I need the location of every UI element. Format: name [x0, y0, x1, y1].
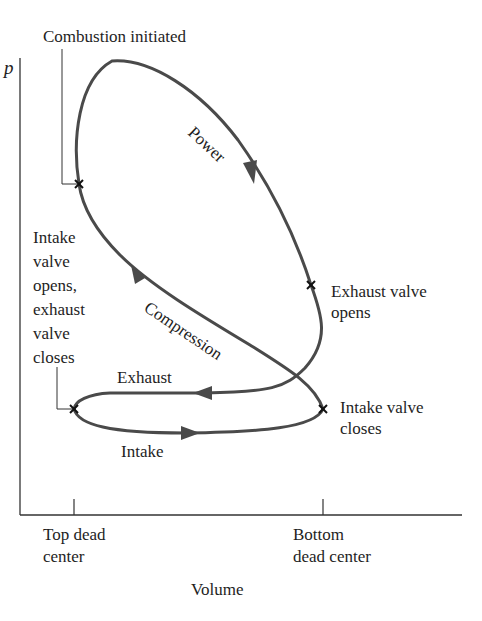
exhaust-opens-label: Exhaust valve opens — [331, 281, 427, 323]
combustion-label: Combustion initiated — [43, 26, 186, 47]
compression-stroke-curve — [79, 184, 323, 409]
intake-opens-label: Intake valve opens, exhaust valve closes — [33, 226, 85, 370]
blowdown-curve — [205, 285, 322, 393]
intake-stroke-label: Intake — [121, 441, 163, 462]
combustion-leader-line — [62, 49, 77, 184]
intake-stroke-curve — [74, 409, 323, 433]
x-axis-label: Volume — [191, 579, 244, 600]
intake-arrow-icon — [181, 426, 200, 440]
power-stroke-curve — [76, 61, 311, 285]
tdc-tick-label: Top dead center — [43, 524, 106, 568]
exhaust-stroke-curve — [74, 393, 205, 409]
exhaust-arrow-icon — [193, 386, 212, 400]
y-axis-label: p — [4, 57, 14, 78]
power-arrow-icon — [243, 160, 257, 184]
exhaust-stroke-label: Exhaust — [117, 367, 172, 388]
intake-opens-leader-line — [57, 367, 72, 409]
bdc-tick-label: Bottom dead center — [293, 524, 371, 568]
intake-closes-label: Intake valve closes — [340, 397, 424, 439]
